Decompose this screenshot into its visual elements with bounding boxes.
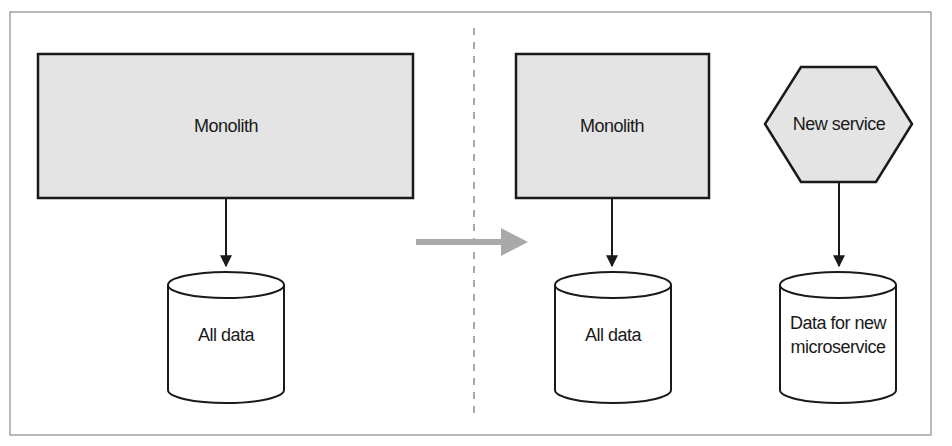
before-monolith-box: Monolith [38,54,413,198]
new-service-database-label-line1: Data for new [790,313,888,333]
before-database-label: All data [198,325,256,345]
after-monolith-database-cylinder: All data [555,272,671,403]
before-monolith-label: Monolith [194,116,258,136]
new-service-database-cylinder: Data for new microservice [780,272,896,403]
after-monolith-box: Monolith [516,54,709,198]
new-service-label: New service [793,114,886,134]
diagram-canvas: Monolith All data Monolith All data New … [0,0,952,446]
new-service-database-label-line2: microservice [790,337,886,357]
before-database-cylinder: All data [168,272,284,403]
after-monolith-label: Monolith [580,116,644,136]
after-monolith-database-label: All data [585,325,643,345]
